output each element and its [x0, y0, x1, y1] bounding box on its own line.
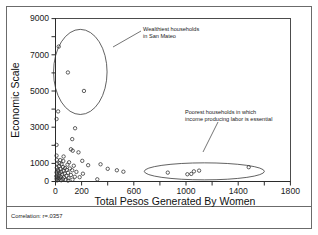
data-point [78, 175, 81, 178]
data-point [82, 89, 85, 92]
poorest-leader-line [203, 122, 218, 152]
data-point [73, 127, 76, 130]
x-tick-label: 200 [74, 186, 89, 196]
highlight-group [54, 29, 265, 180]
data-point [115, 169, 118, 172]
y-tick-label: 7000 [30, 50, 49, 60]
data-point [62, 155, 65, 158]
data-point [71, 137, 74, 140]
x-tick-label: 1800 [281, 186, 300, 196]
y-axis: 0 1000 3000 5000 7000 9000 [30, 13, 56, 186]
poorest-annotation-line-2: income producing labor is essential [185, 116, 272, 122]
x-axis-title: Total Pesos Generated By Women [95, 195, 256, 207]
data-point [66, 71, 69, 74]
data-point [77, 151, 80, 154]
annotation-group: Wealthiest households in San Mateo Poore… [113, 26, 272, 152]
scatter-chart-figure: 0 1000 3000 5000 7000 9000 0 200 600 100… [0, 0, 318, 235]
data-point [166, 171, 169, 174]
data-point [86, 164, 89, 167]
poorest-cluster-ellipse [144, 163, 264, 180]
data-point [186, 173, 189, 176]
data-point [96, 178, 99, 181]
y-tick-label: 3000 [30, 122, 49, 132]
data-point [81, 159, 84, 162]
y-tick-label: 9000 [30, 13, 49, 23]
data-point [197, 169, 200, 172]
correlation-footnote: Correlation: r=.0357 [11, 213, 62, 219]
x-axis: 0 200 600 1000 1400 1800 [53, 182, 300, 197]
data-point [122, 170, 125, 173]
data-point [56, 110, 59, 113]
data-point [72, 164, 75, 167]
x-tick-label: 0 [53, 186, 58, 196]
y-tick-label: 1000 [30, 158, 49, 168]
y-tick-label: 5000 [30, 86, 49, 96]
data-point [99, 163, 102, 166]
data-point [69, 173, 72, 176]
data-point [81, 172, 84, 175]
data-point [192, 170, 195, 173]
data-point [71, 169, 74, 172]
chart-svg: 0 1000 3000 5000 7000 9000 0 200 600 100… [0, 0, 318, 235]
data-point [71, 178, 74, 181]
wealthiest-cluster-circle [54, 29, 108, 114]
y-axis-title: Economic Scale [9, 62, 21, 137]
data-point [106, 167, 109, 170]
wealthiest-leader-line [113, 31, 141, 47]
plot-area-box [56, 19, 291, 182]
wealthiest-annotation-line-2: in San Mateo [143, 33, 176, 39]
wealthiest-annotation-line-1: Wealthiest households [143, 26, 199, 32]
y-tick-label: 0 [44, 176, 49, 186]
poorest-annotation-line-1: Poorest households in which [185, 109, 256, 115]
data-point [75, 170, 78, 173]
